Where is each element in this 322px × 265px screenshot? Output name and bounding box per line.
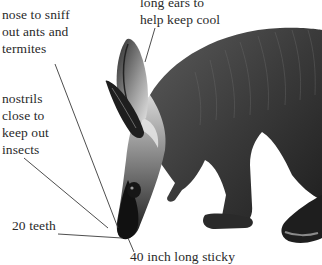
aardvark-eye bbox=[127, 182, 141, 198]
aardvark-body bbox=[150, 28, 322, 228]
label-teeth: 20 teeth bbox=[12, 217, 56, 234]
label-nose: nose to sniff out ants and termites bbox=[2, 6, 70, 57]
leader-line-teeth bbox=[58, 234, 122, 238]
label-nostrils: nostrils close to keep out insects bbox=[2, 90, 49, 158]
leader-line-ears bbox=[145, 28, 155, 62]
label-long-ears: long ears to help keep cool bbox=[140, 0, 220, 28]
label-tongue-cut: 40 inch long sticky bbox=[130, 248, 235, 265]
